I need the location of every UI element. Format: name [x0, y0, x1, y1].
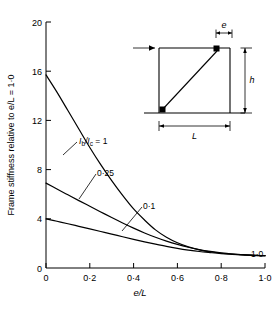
inset-dimension-L: L	[159, 121, 230, 141]
data-curves	[46, 75, 265, 256]
asymptote-label-1-0: 1·0	[251, 249, 264, 259]
y-axis-title: Frame stiffness relative to e/L = 1·0	[6, 75, 16, 216]
curve-label-0-25: 0·25	[97, 168, 114, 178]
curve-ib-ic-1	[46, 75, 265, 256]
chart-figure: 20 16 12 8 4 0 0 0·2 0·4 0·6 0·8 1·0 e/L	[0, 0, 279, 314]
x-tick-label-1-0: 1·0	[258, 273, 271, 283]
y-tick-label-20: 20	[32, 18, 42, 28]
y-tick-label-4: 4	[37, 214, 42, 224]
y-tick-label-0: 0	[37, 264, 42, 274]
y-tick-label-16: 16	[32, 67, 42, 77]
x-tick-label-0: 0	[43, 273, 48, 283]
x-tick-label-0-8: 0·8	[215, 273, 228, 283]
inset-node-top	[214, 46, 220, 52]
inset-label-e: e	[221, 20, 226, 30]
x-tick-label-0-6: 0·6	[171, 273, 184, 283]
curve-ib-ic-0-25	[46, 183, 265, 256]
leader-line-0-25	[79, 174, 96, 199]
inset-dimension-e: e	[216, 20, 232, 38]
inset-dimension-h: h	[241, 48, 255, 113]
x-axis-title: e/L	[133, 287, 146, 298]
inset-label-L: L	[192, 131, 197, 141]
x-tick-label-0-2: 0·2	[83, 273, 96, 283]
x-axis-ticks	[46, 263, 265, 268]
inset-diagonal-brace	[162, 51, 217, 110]
chart-svg: 20 16 12 8 4 0 0 0·2 0·4 0·6 0·8 1·0 e/L	[0, 0, 279, 314]
y-tick-label-8: 8	[37, 165, 42, 175]
inset-node-bottom	[160, 107, 166, 113]
y-axis-tick-labels: 20 16 12 8 4 0	[32, 18, 42, 274]
inset-label-h: h	[249, 75, 254, 85]
inset-frame-diagram: e h L	[133, 20, 255, 141]
load-arrow-icon	[133, 45, 155, 51]
y-axis-ticks	[46, 22, 51, 219]
y-tick-label-12: 12	[32, 116, 42, 126]
x-tick-label-0-4: 0·4	[127, 273, 140, 283]
leader-line-ib-ic-1	[63, 142, 77, 155]
curve-label-0-1: 0·1	[143, 201, 156, 211]
x-axis-tick-labels: 0 0·2 0·4 0·6 0·8 1·0	[43, 273, 271, 283]
